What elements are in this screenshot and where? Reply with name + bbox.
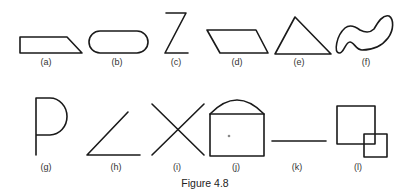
label-f: (f) (362, 57, 371, 67)
label-a: (a) (41, 57, 52, 67)
label-b: (b) (112, 57, 123, 67)
shape-a-trapezoid (20, 37, 82, 53)
shape-d-parallelogram (207, 30, 268, 53)
shape-l-large-square (337, 106, 375, 144)
label-h: (h) (111, 162, 122, 172)
label-c: (c) (171, 57, 182, 67)
label-d: (d) (232, 57, 243, 67)
label-e: (e) (294, 57, 305, 67)
shape-c-z (165, 13, 188, 53)
label-g: (g) (41, 162, 52, 172)
shape-b-stadium (89, 31, 148, 53)
label-i: (i) (173, 162, 181, 172)
shape-j-arc (210, 100, 264, 114)
label-l: (l) (354, 162, 362, 172)
shape-j-dot (228, 135, 231, 138)
figure-caption: Figure 4.8 (181, 177, 228, 189)
shape-f-blob (336, 16, 392, 53)
shape-h-angle (87, 112, 140, 155)
shape-e-triangle (275, 17, 331, 54)
label-k: (k) (292, 162, 303, 172)
shape-g-p (36, 98, 67, 155)
label-j: (j) (232, 162, 240, 172)
shape-j-rect (210, 114, 264, 156)
figure-4-8: (a) (b) (c) (d) (e) (f) (g) (h) (i) (j) … (0, 0, 410, 193)
